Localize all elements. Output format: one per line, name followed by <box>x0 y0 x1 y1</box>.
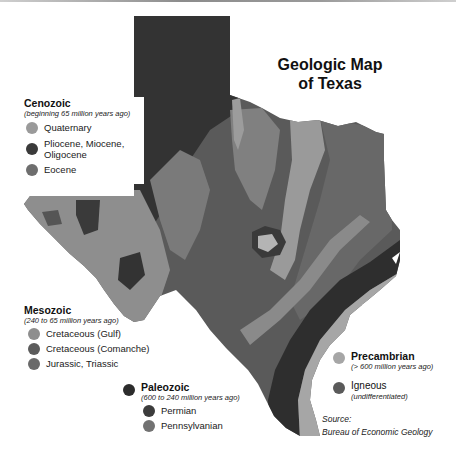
source-label: Source: <box>322 413 433 426</box>
legend-precambrian-title: Precambrian <box>351 350 433 362</box>
legend-paleozoic: Paleozoic (600 to 240 million years ago)… <box>123 381 240 432</box>
legend-label-eocene: Eocene <box>44 164 76 175</box>
legend-dot-precambrian-icon <box>333 352 345 364</box>
legend-item-permian: Permian <box>143 405 240 417</box>
legend-dot-igneous-icon <box>333 382 345 394</box>
legend-cenozoic-title: Cenozoic <box>24 97 144 109</box>
legend-dot-cretaceous-comanche-icon <box>28 343 40 355</box>
legend-igneous-subtitle: (undifferentiated) <box>351 392 408 401</box>
source-credit: Source: Bureau of Economic Geology <box>322 413 433 439</box>
source-text: Bureau of Economic Geology <box>322 426 433 439</box>
legend-item-cretaceous-gulf: Cretaceous (Gulf) <box>28 328 150 340</box>
legend-mesozoic-subtitle: (240 to 65 million years ago) <box>24 316 150 325</box>
legend-dot-pennsylvanian-icon <box>143 420 155 432</box>
legend-paleozoic-subtitle: (600 to 240 million years ago) <box>141 393 240 402</box>
legend-label-pliocene-line2: Oligocene <box>44 149 124 160</box>
legend-item-eocene: Eocene <box>26 164 144 176</box>
legend-precambrian: Precambrian (> 600 million years ago) <box>333 350 433 371</box>
legend-label-jurassic-triassic: Jurassic, Triassic <box>46 358 118 369</box>
legend-igneous-title: Igneous <box>351 380 408 392</box>
legend-cenozoic: Cenozoic (beginning 65 million years ago… <box>24 97 144 184</box>
legend-label-cretaceous-comanche: Cretaceous (Comanche) <box>46 343 150 354</box>
legend-label-cretaceous-gulf: Cretaceous (Gulf) <box>46 328 121 339</box>
legend-paleozoic-title: Paleozoic <box>141 381 240 393</box>
legend-dot-pliocene-icon <box>26 143 38 155</box>
legend-item-pennsylvanian: Pennsylvanian <box>143 420 240 432</box>
legend-dot-paleozoic-icon <box>123 384 135 396</box>
map-title: Geologic Map of Texas <box>255 55 405 93</box>
legend-dot-quaternary-icon <box>26 122 38 134</box>
legend-precambrian-subtitle: (> 600 million years ago) <box>351 362 433 371</box>
legend-item-jurassic-triassic: Jurassic, Triassic <box>28 358 150 370</box>
legend-dot-jurassic-triassic-icon <box>28 358 40 370</box>
legend-item-pliocene: Pliocene, Miocene, Oligocene <box>26 138 144 160</box>
legend-label-quaternary: Quaternary <box>44 122 92 133</box>
map-title-line1: Geologic Map <box>255 55 405 74</box>
legend-label-permian: Permian <box>161 405 196 416</box>
legend-dot-permian-icon <box>143 405 155 417</box>
legend-mesozoic: Mesozoic (240 to 65 million years ago) C… <box>24 304 150 370</box>
legend-cenozoic-subtitle: (beginning 65 million years ago) <box>24 109 144 118</box>
legend-mesozoic-title: Mesozoic <box>24 304 150 316</box>
legend-item-quaternary: Quaternary <box>26 122 144 134</box>
legend-dot-cretaceous-gulf-icon <box>28 328 40 340</box>
map-title-line2: of Texas <box>255 74 405 93</box>
legend-label-pliocene-line1: Pliocene, Miocene, <box>44 138 124 149</box>
legend-item-cretaceous-comanche: Cretaceous (Comanche) <box>28 343 150 355</box>
legend-igneous: Igneous (undifferentiated) <box>333 380 408 401</box>
legend-label-pennsylvanian: Pennsylvanian <box>161 420 223 431</box>
legend-dot-eocene-icon <box>26 164 38 176</box>
